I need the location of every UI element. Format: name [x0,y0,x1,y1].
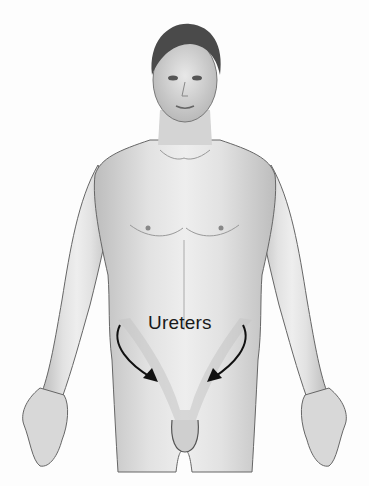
anatomy-figure: Ureters [0,0,369,486]
left-hand [23,388,68,466]
right-hand [301,388,346,466]
body-illustration [0,0,369,486]
ureters-label: Ureters [148,312,212,334]
